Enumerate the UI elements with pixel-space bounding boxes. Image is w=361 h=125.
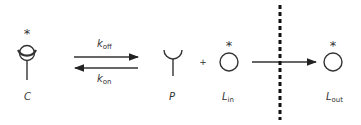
k-off-label: koff xyxy=(97,38,112,51)
ligand-in-icon xyxy=(220,53,238,71)
k-on-label: kon xyxy=(97,73,112,86)
ligand-out-label: Lout xyxy=(326,91,343,104)
protein-label: P xyxy=(169,91,176,102)
ligand-in-marker: * xyxy=(226,38,233,53)
complex-marker: * xyxy=(24,26,31,41)
reaction-diagram: * C koff kon P + * Lin * Lout xyxy=(0,0,361,125)
ligand-out-marker: * xyxy=(330,38,337,53)
protein-p-icon xyxy=(164,50,182,76)
ligand-out-icon xyxy=(324,53,342,71)
plus-sign: + xyxy=(199,57,207,67)
complex-c-icon xyxy=(18,46,36,81)
complex-label: C xyxy=(24,91,31,102)
ligand-in-label: Lin xyxy=(222,91,234,104)
